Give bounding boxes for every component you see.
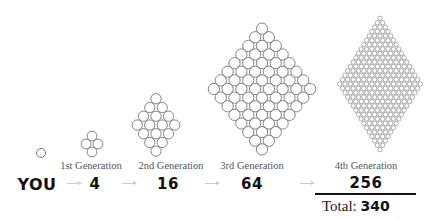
diagram: 1st Generation 2nd Generation 3rd Genera… <box>0 0 433 220</box>
gen2-diamond <box>131 90 181 160</box>
gen4-label: 4th Generation <box>335 160 398 171</box>
total: Total: 340 <box>322 198 390 215</box>
gen3-count: 64 <box>241 175 263 193</box>
total-value: 340 <box>361 198 390 214</box>
arrow-icon <box>67 183 81 184</box>
gen4-diamond <box>337 14 423 154</box>
arrow-icon <box>300 183 314 184</box>
gen1-diamond <box>80 128 104 160</box>
arrow-icon <box>205 183 219 184</box>
gen3-diamond <box>207 20 317 158</box>
gen3-label: 3rd Generation <box>220 160 283 171</box>
you-label: YOU <box>17 175 56 194</box>
gen2-label: 2nd Generation <box>138 160 203 171</box>
gen4-count: 256 <box>350 174 383 192</box>
gen2-count: 16 <box>157 175 179 193</box>
gen1-count: 4 <box>90 175 101 193</box>
total-label: Total: <box>322 198 357 214</box>
sum-rule <box>315 193 416 195</box>
gen1-label: 1st Generation <box>60 160 122 171</box>
you-circle <box>34 146 48 160</box>
arrow-icon <box>122 183 136 184</box>
